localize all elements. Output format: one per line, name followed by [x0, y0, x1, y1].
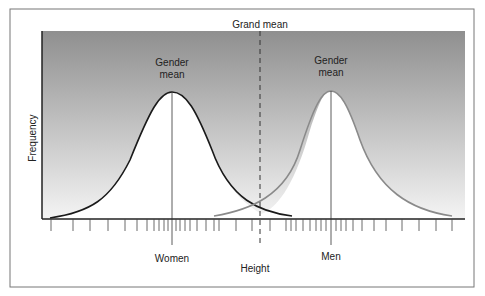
men-gender-mean-label-line2: mean	[306, 67, 356, 78]
x-axis-label: Height	[230, 263, 280, 274]
y-axis-label: Frequency	[27, 108, 38, 168]
men-label: Men	[306, 251, 356, 262]
women-gender-mean-label-line2: mean	[147, 69, 197, 80]
grand-mean-label: Grand mean	[230, 19, 290, 30]
women-label: Women	[147, 253, 197, 264]
men-gender-mean-label-line1: Gender	[306, 55, 356, 66]
women-gender-mean-label-line1: Gender	[147, 57, 197, 68]
height-distribution-figure	[0, 0, 485, 296]
plot-background	[42, 31, 465, 219]
